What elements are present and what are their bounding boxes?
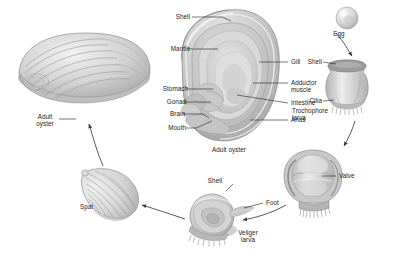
trochophore-larva-illustration: [326, 60, 368, 115]
label-gonad: Gonad: [140, 98, 186, 105]
label-shell: Shell: [150, 13, 190, 20]
label-veliger-larva-line2: larva: [228, 236, 268, 243]
label-egg: Egg: [326, 30, 352, 37]
spat-illustration: [82, 169, 139, 221]
label-adult-oyster-left-line2: oyster: [30, 120, 60, 127]
label-veliger-shell: Shell: [200, 177, 230, 184]
label-brain: Brain: [140, 110, 185, 117]
label-trochophore-shell: Shell: [292, 58, 322, 65]
label-valve: Valve: [339, 172, 355, 179]
label-mouth: Mouth: [140, 124, 186, 131]
label-adult-oyster-center: Adult oyster: [199, 146, 259, 153]
label-adductor-muscle-line2: muscle: [291, 86, 311, 93]
valve-larva-illustration: [284, 150, 342, 218]
arrow-veliger-to-spat: [142, 205, 185, 219]
arrow-spat-to-adult: [89, 124, 103, 166]
arrow-trochophore-to-valve-larva: [344, 121, 355, 146]
diagram-artwork: [0, 0, 393, 258]
label-spat: Spat: [80, 203, 93, 210]
label-mantle: Mantle: [145, 45, 190, 52]
label-trochophore-cilia: Cilia: [294, 97, 322, 104]
adult-oyster-left-illustration: [18, 33, 150, 103]
label-trochophore-larva-line2: larva: [292, 114, 306, 121]
label-veliger-foot: Foot: [266, 199, 279, 206]
adult-oyster-anatomy-illustration: [182, 10, 280, 141]
label-stomach: Stomach: [140, 85, 188, 92]
egg-illustration: [336, 7, 358, 29]
oyster-life-cycle-diagram: Shell Mantle Stomach Gonad Brain Mouth G…: [0, 0, 393, 258]
